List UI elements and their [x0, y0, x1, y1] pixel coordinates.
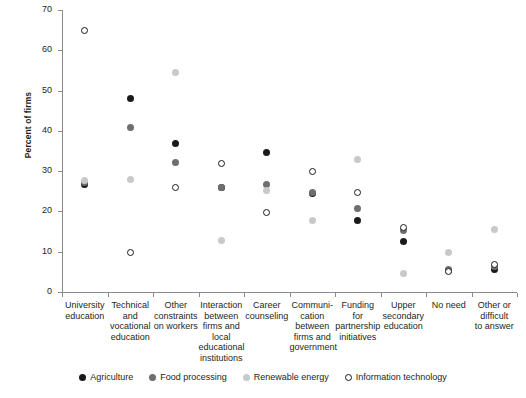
data-point-agriculture — [127, 95, 134, 102]
x-axis-label-line: Upper — [381, 300, 427, 311]
chart-legend: AgricultureFood processingRenewable ener… — [0, 372, 526, 382]
y-tick-label: 40 — [26, 126, 52, 135]
x-axis-label-line: cation — [290, 311, 336, 322]
y-tick-mark — [58, 91, 62, 92]
data-point-information-technology — [400, 224, 407, 231]
x-axis-label-line: secondary — [381, 311, 427, 322]
legend-item-renewable-energy[interactable]: Renewable energy — [243, 372, 329, 382]
x-tick-mark — [472, 293, 473, 297]
x-axis-label-line: education — [62, 311, 108, 322]
data-point-renewable-energy — [491, 226, 498, 233]
y-tick-label: 20 — [26, 206, 52, 215]
y-tick-label: 10 — [26, 247, 52, 256]
legend-marker-icon — [149, 374, 156, 381]
x-axis-label-line: Technical — [108, 300, 154, 311]
x-axis-label-line: government — [290, 342, 336, 353]
legend-marker-icon — [243, 374, 250, 381]
y-tick-mark — [58, 171, 62, 172]
x-axis-label-line: Career — [244, 300, 290, 311]
data-point-agriculture — [354, 217, 361, 224]
data-point-renewable-energy — [81, 177, 88, 184]
data-point-renewable-energy — [309, 217, 316, 224]
data-point-information-technology — [445, 268, 452, 275]
y-tick-label: 60 — [26, 45, 52, 54]
x-axis-label: Communi-cationbetweenfirms andgovernment — [290, 300, 336, 353]
data-point-food-processing — [127, 124, 134, 131]
x-axis-label-line: to answer — [472, 321, 518, 332]
data-point-renewable-energy — [354, 156, 361, 163]
x-axis-label-line: Other — [153, 300, 199, 311]
x-tick-mark — [108, 293, 109, 297]
data-point-food-processing — [172, 159, 179, 166]
x-axis-label-line: Interaction — [199, 300, 245, 311]
x-axis-label-line: constraints — [153, 311, 199, 322]
x-axis-label: No need — [426, 300, 472, 311]
x-axis-label-line: difficult — [472, 311, 518, 322]
x-axis-label-line: Communi- — [290, 300, 336, 311]
x-axis-label-line: partnership — [335, 321, 381, 332]
x-tick-mark — [381, 293, 382, 297]
legend-label: Information technology — [356, 372, 447, 382]
y-tick-mark — [58, 211, 62, 212]
legend-label: Food processing — [160, 372, 227, 382]
x-axis-label-line: firms and — [290, 332, 336, 343]
x-tick-mark — [290, 293, 291, 297]
data-point-information-technology — [81, 27, 88, 34]
x-axis-label-line: between — [290, 321, 336, 332]
x-axis-label-line: education — [108, 332, 154, 343]
legend-marker-icon — [79, 374, 86, 381]
data-point-renewable-energy — [400, 270, 407, 277]
data-point-agriculture — [263, 149, 270, 156]
y-tick-label: 30 — [26, 166, 52, 175]
x-axis-label-line: initiatives — [335, 332, 381, 343]
legend-item-food-processing[interactable]: Food processing — [149, 372, 227, 382]
x-axis-label-line: counseling — [244, 311, 290, 322]
x-tick-mark — [335, 293, 336, 297]
data-point-information-technology — [218, 160, 225, 167]
x-axis-label: Funding forpartnershipinitiatives — [335, 300, 381, 342]
y-tick-mark — [58, 10, 62, 11]
data-point-agriculture — [400, 238, 407, 245]
x-axis-label-line: educational — [199, 342, 245, 353]
y-axis-line — [62, 10, 63, 293]
legend-item-agriculture[interactable]: Agriculture — [79, 372, 133, 382]
data-point-information-technology — [127, 249, 134, 256]
x-axis-label: Technicalandvocationaleducation — [108, 300, 154, 342]
x-axis-label-line: institutions — [199, 353, 245, 364]
legend-item-information-technology[interactable]: Information technology — [345, 372, 447, 382]
x-axis-label-line: education — [381, 321, 427, 332]
x-tick-mark — [199, 293, 200, 297]
data-point-agriculture — [172, 140, 179, 147]
x-tick-mark — [517, 293, 518, 297]
y-tick-label: 50 — [26, 86, 52, 95]
data-point-renewable-energy — [263, 187, 270, 194]
y-tick-label: 0 — [26, 287, 52, 296]
x-tick-mark — [244, 293, 245, 297]
y-tick-mark — [58, 131, 62, 132]
legend-marker-icon — [345, 374, 352, 381]
data-point-renewable-energy — [127, 176, 134, 183]
data-point-renewable-energy — [218, 237, 225, 244]
x-axis-label: Universityeducation — [62, 300, 108, 321]
y-tick-label: 70 — [26, 5, 52, 14]
legend-label: Renewable energy — [254, 372, 329, 382]
x-axis-label-line: No need — [426, 300, 472, 311]
x-axis-label: Other ordifficultto answer — [472, 300, 518, 332]
data-point-information-technology — [172, 184, 179, 191]
data-point-information-technology — [263, 209, 270, 216]
y-tick-mark — [58, 252, 62, 253]
x-axis-label-line: University — [62, 300, 108, 311]
x-axis-label: Uppersecondaryeducation — [381, 300, 427, 332]
data-point-information-technology — [491, 261, 498, 268]
x-axis-label-line: Other or — [472, 300, 518, 311]
data-point-renewable-energy — [172, 69, 179, 76]
x-axis-label: Otherconstraintson workers — [153, 300, 199, 332]
legend-label: Agriculture — [90, 372, 133, 382]
y-tick-mark — [58, 50, 62, 51]
x-axis-label-line: local — [199, 332, 245, 343]
x-axis-label-line: vocational — [108, 321, 154, 332]
scatter-chart: Percent of firms 010203040506070 Univers… — [0, 0, 526, 398]
x-tick-mark — [426, 293, 427, 297]
x-axis-label-line: Funding for — [335, 300, 381, 321]
x-axis-label-line: and — [108, 311, 154, 322]
